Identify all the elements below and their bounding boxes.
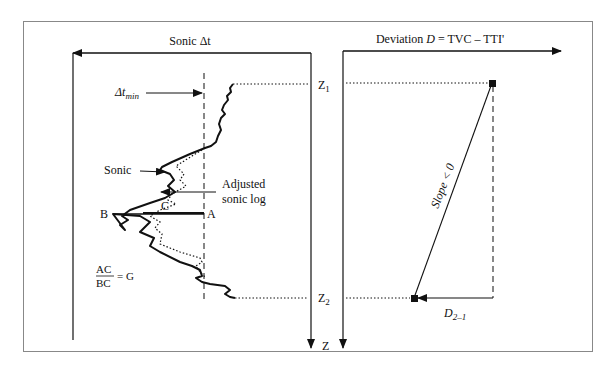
adjusted-sonic-label-line1: Adjusted <box>222 177 265 191</box>
ratio-formula: AC BC = G <box>96 263 134 289</box>
adjusted-sonic-label-line2: sonic log <box>222 192 266 206</box>
sonic-log-curve <box>113 84 235 298</box>
point-c-label: C <box>161 199 169 213</box>
z2-data-point <box>411 295 418 302</box>
deviation-axis-title: Deviation D = TVC – TTI' <box>376 32 504 46</box>
z2-label: Z2 <box>318 291 330 307</box>
z1-data-point <box>489 80 496 87</box>
sonic-label: Sonic <box>104 163 131 177</box>
slope-label: Slope < 0 <box>428 161 458 210</box>
left-panel: Sonic Δt Δtmin Z1 Z2 Z B C A <box>73 34 330 353</box>
ratio-equals-g: = G <box>117 270 134 282</box>
point-a-label: A <box>207 207 216 221</box>
z-axis-label: Z <box>322 339 329 353</box>
ratio-numerator: AC <box>96 263 111 275</box>
d21-label: D2–1 <box>443 306 466 322</box>
z1-label: Z1 <box>318 78 330 94</box>
ratio-denominator: BC <box>96 277 111 289</box>
sonic-axis-title: Sonic Δt <box>169 34 211 48</box>
outer-frame <box>24 22 593 352</box>
sonic-deviation-diagram: Sonic Δt Δtmin Z1 Z2 Z B C A <box>0 0 615 368</box>
point-b-label: B <box>100 207 108 221</box>
slope-line <box>414 83 492 298</box>
dt-min-label: Δtmin <box>114 85 139 101</box>
right-panel: Deviation D = TVC – TTI' D2–1 Slope < 0 <box>343 32 561 348</box>
